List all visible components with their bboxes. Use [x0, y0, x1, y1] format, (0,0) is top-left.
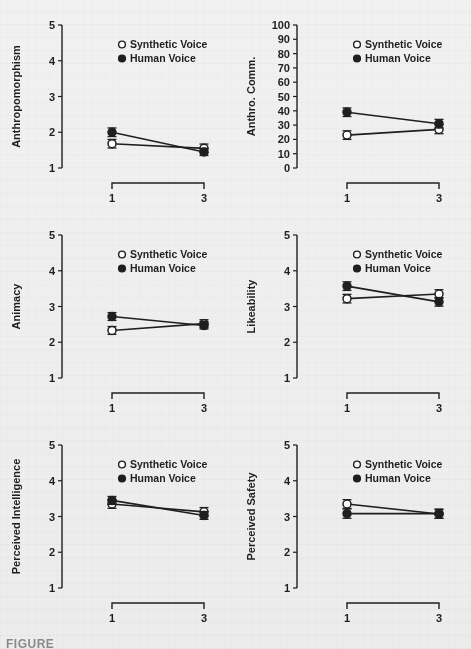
- chart-legend: Synthetic VoiceHuman Voice: [354, 458, 443, 484]
- y-tick-label: 4: [49, 475, 56, 487]
- series-line-human: [347, 112, 439, 123]
- data-point-synthetic: [435, 290, 443, 298]
- legend-marker-human-icon: [119, 265, 126, 272]
- y-tick-label: 2: [284, 336, 290, 348]
- y-axis-title: Anthro. Comm.: [245, 57, 257, 136]
- chart-legend: Synthetic VoiceHuman Voice: [354, 248, 443, 274]
- data-point-human: [435, 298, 443, 306]
- x-tick-label: 1: [109, 192, 115, 204]
- y-tick-label: 2: [49, 546, 55, 558]
- y-axis-title: Likeability: [245, 279, 257, 334]
- legend-label-human: Human Voice: [130, 472, 196, 484]
- series-line-synthetic: [112, 144, 204, 149]
- legend-label-synthetic: Synthetic Voice: [365, 38, 443, 50]
- panel-top-left: 12345Anthropomorphism13Number of VoicesS…: [0, 0, 235, 210]
- data-point-human: [108, 496, 116, 504]
- y-tick-label: 40: [278, 105, 290, 117]
- y-tick-label: 70: [278, 62, 290, 74]
- chart-bottom-left: 12345Perceived Intelligence13Number of V…: [0, 420, 235, 630]
- x-tick-label: 3: [201, 192, 207, 204]
- y-tick-label: 1: [49, 582, 55, 594]
- y-tick-label: 1: [284, 372, 290, 384]
- x-tick-label: 1: [344, 402, 350, 414]
- x-axis-bracket: [112, 393, 204, 399]
- figure-panel-grid: 12345Anthropomorphism13Number of VoicesS…: [0, 0, 471, 649]
- y-tick-label: 3: [49, 511, 55, 523]
- legend-label-synthetic: Synthetic Voice: [130, 248, 208, 260]
- chart-legend: Synthetic VoiceHuman Voice: [119, 458, 208, 484]
- data-point-human: [200, 148, 208, 156]
- legend-marker-human-icon: [354, 55, 361, 62]
- y-tick-label: 5: [49, 229, 55, 241]
- y-tick-label: 4: [284, 475, 291, 487]
- series-line-synthetic: [347, 504, 439, 514]
- y-tick-label: 90: [278, 33, 290, 45]
- y-tick-label: 0: [284, 162, 290, 174]
- x-tick-label: 3: [201, 612, 207, 624]
- y-tick-label: 4: [284, 265, 291, 277]
- panel-middle-right: 12345Likeability13Number of VoicesSynthe…: [235, 210, 471, 420]
- data-point-synthetic: [343, 500, 351, 508]
- series-line-human: [112, 317, 204, 326]
- legend-label-human: Human Voice: [130, 52, 196, 64]
- y-tick-label: 4: [49, 55, 56, 67]
- panel-bottom-left: 12345Perceived Intelligence13Number of V…: [0, 420, 235, 632]
- x-axis-title: Number of Voices: [347, 629, 440, 630]
- x-tick-label: 1: [344, 192, 350, 204]
- y-tick-label: 4: [49, 265, 56, 277]
- y-tick-label: 80: [278, 48, 290, 60]
- legend-label-synthetic: Synthetic Voice: [130, 458, 208, 470]
- series-line-human: [112, 500, 204, 515]
- legend-label-human: Human Voice: [130, 262, 196, 274]
- x-tick-label: 3: [436, 402, 442, 414]
- y-tick-label: 1: [284, 582, 290, 594]
- y-tick-label: 3: [284, 511, 290, 523]
- y-tick-label: 2: [49, 126, 55, 138]
- legend-marker-synthetic-icon: [119, 251, 126, 258]
- x-tick-label: 3: [436, 192, 442, 204]
- series-line-human: [112, 132, 204, 152]
- legend-marker-synthetic-icon: [119, 461, 126, 468]
- x-axis-bracket: [347, 393, 439, 399]
- y-tick-label: 3: [49, 301, 55, 313]
- chart-bottom-right: 12345Perceived Safety13Number of VoicesS…: [235, 420, 470, 630]
- chart-top-right: 0102030405060708090100Anthro. Comm.13Num…: [235, 0, 470, 210]
- legend-marker-human-icon: [354, 265, 361, 272]
- y-axis-title: Animacy: [10, 283, 22, 330]
- y-tick-label: 2: [49, 336, 55, 348]
- legend-marker-synthetic-icon: [354, 41, 361, 48]
- data-point-human: [343, 282, 351, 290]
- data-point-human: [200, 321, 208, 329]
- x-axis-bracket: [347, 603, 439, 609]
- legend-marker-synthetic-icon: [119, 41, 126, 48]
- legend-label-human: Human Voice: [365, 472, 431, 484]
- legend-label-human: Human Voice: [365, 52, 431, 64]
- chart-legend: Synthetic VoiceHuman Voice: [354, 38, 443, 64]
- y-tick-label: 1: [49, 162, 55, 174]
- legend-marker-synthetic-icon: [354, 461, 361, 468]
- legend-label-synthetic: Synthetic Voice: [365, 458, 443, 470]
- data-point-human: [435, 510, 443, 518]
- y-tick-label: 1: [49, 372, 55, 384]
- figure-caption-label: FIGURE: [6, 637, 54, 649]
- legend-label-synthetic: Synthetic Voice: [365, 248, 443, 260]
- legend-marker-synthetic-icon: [354, 251, 361, 258]
- panel-middle-left: 12345Animacy13Number of VoicesSynthetic …: [0, 210, 235, 420]
- chart-top-left: 12345Anthropomorphism13Number of VoicesS…: [0, 0, 235, 210]
- data-point-human: [435, 120, 443, 128]
- y-axis-title: Anthropomorphism: [10, 45, 22, 148]
- y-tick-label: 50: [278, 91, 290, 103]
- data-point-human: [343, 510, 351, 518]
- panel-bottom-right: 12345Perceived Safety13Number of VoicesS…: [235, 420, 471, 632]
- y-tick-label: 3: [284, 301, 290, 313]
- chart-middle-left: 12345Animacy13Number of VoicesSynthetic …: [0, 210, 235, 420]
- chart-legend: Synthetic VoiceHuman Voice: [119, 248, 208, 274]
- x-axis-bracket: [112, 603, 204, 609]
- legend-label-synthetic: Synthetic Voice: [130, 38, 208, 50]
- chart-middle-right: 12345Likeability13Number of VoicesSynthe…: [235, 210, 470, 420]
- y-tick-label: 60: [278, 76, 290, 88]
- data-point-synthetic: [108, 140, 116, 148]
- x-tick-label: 1: [109, 402, 115, 414]
- data-point-human: [343, 108, 351, 116]
- y-tick-label: 5: [284, 229, 290, 241]
